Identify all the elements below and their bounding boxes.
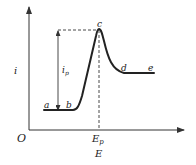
x-axis-label: E (94, 148, 103, 159)
y-axis-label: i (14, 65, 17, 76)
point-b-label: b (66, 100, 72, 110)
point-a-label: a (44, 100, 49, 110)
voltammogram-diagram: i O Ep E ip a b c d e (0, 0, 196, 165)
point-e-label: e (148, 63, 153, 73)
peak-current-label: ip (62, 65, 69, 77)
origin-label: O (17, 132, 26, 145)
peak-potential-label: Ep (91, 133, 104, 146)
point-d-label: d (121, 63, 127, 73)
point-c-label: c (97, 19, 102, 29)
